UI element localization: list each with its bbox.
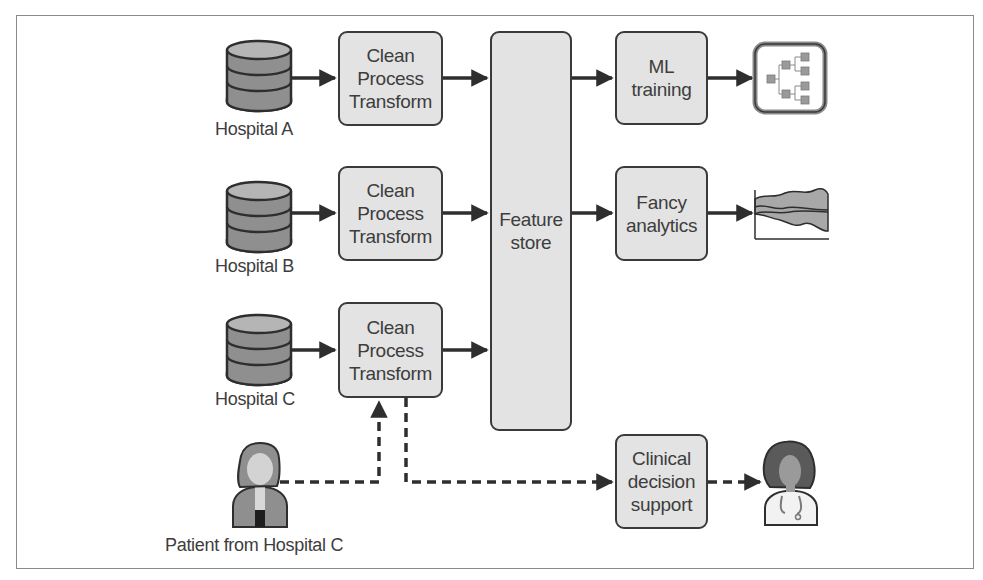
clean-process-transform-a-label: Clean Process Transform <box>349 44 432 113</box>
hospital-c-label: Hospital C <box>215 389 295 410</box>
database-icon-hospital-c <box>227 315 291 385</box>
feature-store-label: Feature store <box>499 208 562 254</box>
database-icon-hospital-b <box>227 182 291 252</box>
ml-training-box: ML training <box>615 31 708 125</box>
fancy-analytics-box: Fancy analytics <box>615 166 708 261</box>
database-icon-hospital-a <box>227 41 291 111</box>
clinical-decision-support-label: Clinical decision support <box>628 447 695 516</box>
patient-icon <box>233 443 287 527</box>
patient-label: Patient from Hospital C <box>165 535 343 556</box>
feature-store: Feature store <box>490 31 572 431</box>
doctor-icon <box>764 442 817 525</box>
clean-process-transform-c: Clean Process Transform <box>338 302 443 398</box>
ml-training-label: ML training <box>632 55 692 101</box>
hospital-a-label: Hospital A <box>215 119 293 140</box>
clean-process-transform-c-label: Clean Process Transform <box>349 316 432 385</box>
clean-process-transform-a: Clean Process Transform <box>338 31 443 126</box>
clean-process-transform-b: Clean Process Transform <box>338 166 443 261</box>
fancy-analytics-label: Fancy analytics <box>626 191 697 237</box>
decision-tree-icon <box>755 44 825 112</box>
area-chart-icon <box>755 189 829 239</box>
clean-process-transform-b-label: Clean Process Transform <box>349 179 432 248</box>
hospital-b-label: Hospital B <box>215 256 294 277</box>
clinical-decision-support-box: Clinical decision support <box>615 434 708 529</box>
